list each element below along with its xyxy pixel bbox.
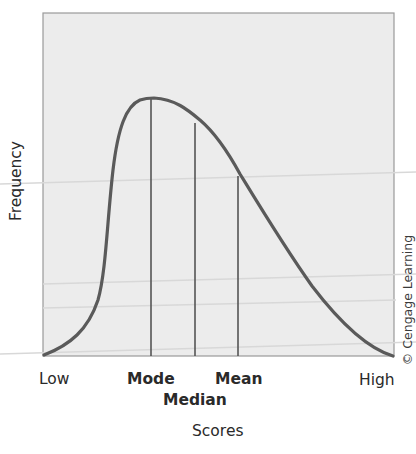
skewed-distribution-chart: Low High Mode Mean Median Scores Frequen… [0, 0, 416, 454]
median-label: Median [163, 391, 227, 409]
y-axis-title: Frequency [7, 141, 25, 221]
x-axis-title: Scores [192, 422, 244, 440]
mean-label: Mean [215, 370, 262, 388]
mode-label: Mode [127, 370, 175, 388]
copyright-credit: © Cengage Learning [400, 235, 415, 365]
x-tick-low: Low [39, 370, 70, 388]
x-tick-high: High [359, 371, 395, 389]
